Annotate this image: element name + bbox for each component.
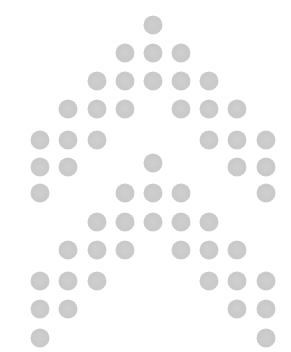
dot-icon: [59, 241, 78, 260]
dot-icon: [31, 158, 50, 177]
dot-icon: [228, 131, 247, 150]
dot-icon: [228, 300, 247, 319]
dot-icon: [144, 72, 163, 91]
dot-icon: [257, 329, 276, 348]
dot-icon: [31, 184, 50, 203]
dot-icon: [172, 72, 191, 91]
dot-icon: [59, 272, 78, 291]
dot-icon: [228, 241, 247, 260]
dot-icon: [88, 272, 107, 291]
dot-icon: [59, 158, 78, 177]
dot-icon: [144, 154, 163, 173]
dot-icon: [172, 184, 191, 203]
dot-icon: [200, 131, 219, 150]
dot-icon: [116, 213, 135, 232]
dot-icon: [200, 272, 219, 291]
dot-icon: [116, 241, 135, 260]
dot-icon: [31, 329, 50, 348]
dot-icon: [116, 184, 135, 203]
dot-icon: [257, 131, 276, 150]
dot-icon: [88, 241, 107, 260]
dot-icon: [228, 100, 247, 119]
dot-icon: [257, 184, 276, 203]
dot-icon: [144, 184, 163, 203]
dot-icon: [116, 72, 135, 91]
dot-icon: [116, 44, 135, 63]
dot-icon: [88, 131, 107, 150]
dot-icon: [59, 300, 78, 319]
dot-icon: [172, 44, 191, 63]
dot-icon: [200, 72, 219, 91]
dot-icon: [31, 300, 50, 319]
dot-icon: [144, 44, 163, 63]
dot-icon: [200, 213, 219, 232]
dot-icon: [228, 272, 247, 291]
dot-icon: [172, 213, 191, 232]
dot-icon: [144, 16, 163, 35]
dot-icon: [31, 272, 50, 291]
dot-icon: [257, 158, 276, 177]
dot-icon: [116, 100, 135, 119]
dot-icon: [172, 100, 191, 119]
dot-icon: [31, 131, 50, 150]
dot-icon: [228, 158, 247, 177]
dot-pattern-canvas: [0, 0, 291, 352]
dot-icon: [200, 100, 219, 119]
dot-icon: [59, 131, 78, 150]
dot-icon: [257, 272, 276, 291]
dot-icon: [200, 241, 219, 260]
dot-icon: [59, 100, 78, 119]
dot-icon: [257, 300, 276, 319]
dot-icon: [144, 213, 163, 232]
dot-icon: [88, 72, 107, 91]
dot-icon: [172, 241, 191, 260]
dot-icon: [88, 213, 107, 232]
dot-icon: [88, 100, 107, 119]
